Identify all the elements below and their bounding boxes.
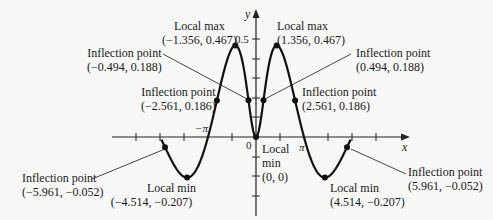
x-axis-label: x: [402, 140, 407, 154]
coords: (4.514, −0.207): [330, 195, 405, 209]
coords: (5.961, −0.052): [408, 179, 483, 193]
local-max-left-label: Local max (−1.356, 0.467): [162, 19, 237, 47]
inflection-right-outer-label: Inflection point (5.961, −0.052): [408, 165, 483, 193]
title: Inflection point: [22, 171, 104, 185]
title: Inflection point: [302, 85, 376, 99]
local-min-right-point: [322, 175, 328, 181]
y-axis-label: y: [245, 7, 250, 21]
inflection-right-outer-point: [344, 144, 350, 150]
inflection-right-mid-point: [292, 98, 298, 104]
coords: (0, 0): [262, 170, 289, 184]
title: Local min: [107, 181, 196, 195]
origin-label: 0: [246, 138, 252, 152]
y-axis-arrow-icon: [253, 9, 260, 18]
coords: (−1.356, 0.467): [162, 33, 237, 47]
local-min-origin-label: Local min (0, 0): [262, 142, 289, 184]
local-min-right-label: Local min (4.514, −0.207): [330, 181, 405, 209]
title: Local max: [277, 19, 345, 33]
pi-label: π: [299, 140, 305, 154]
neg-pi-label: −π: [195, 121, 208, 135]
inflection-left-inner-label: Inflection point (−0.494, 0.188): [87, 46, 162, 74]
inflection-right-inner-label: Inflection point (0.494, 0.188): [356, 46, 430, 74]
coords: (−2.561, 0.186): [141, 99, 216, 113]
local-min-origin-point: [253, 134, 259, 140]
coords: (−4.514, −0.207): [107, 195, 196, 209]
coords: (1.356, 0.467): [277, 33, 345, 47]
local-min-left-point: [184, 175, 190, 181]
inflection-left-outer-label: Inflection point (−5.961, −0.052): [22, 171, 104, 199]
coords: (−5.961, −0.052): [22, 185, 104, 199]
title: Local min: [330, 181, 405, 195]
coords: (2.561, 0.186): [302, 99, 376, 113]
coords: (−0.494, 0.188): [87, 60, 162, 74]
inflection-left-inner-point: [246, 97, 252, 103]
title: Inflection point: [87, 46, 162, 60]
inflection-right-inner-point: [261, 97, 267, 103]
local-max-right-label: Local max (1.356, 0.467): [277, 19, 345, 47]
local-min-left-label: Local min (−4.514, −0.207): [107, 181, 196, 209]
title: Local max: [162, 19, 237, 33]
title: Inflection point: [356, 46, 430, 60]
title: Inflection point: [408, 165, 483, 179]
inflection-right-mid-label: Inflection point (2.561, 0.186): [302, 85, 376, 113]
title2: min: [262, 156, 289, 170]
title: Inflection point: [141, 85, 216, 99]
inflection-left-mid-label: Inflection point (−2.561, 0.186): [141, 85, 216, 113]
title1: Local: [262, 142, 289, 156]
inflection-left-outer-point: [162, 144, 168, 150]
y-tick-label-0.5: 0.5: [235, 32, 249, 46]
coords: (0.494, 0.188): [356, 60, 430, 74]
